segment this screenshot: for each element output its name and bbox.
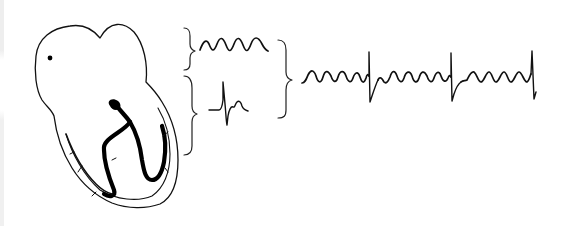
heart-illustration (35, 24, 178, 207)
ecg-qrs-spike-2 (451, 53, 461, 101)
ventricular-brace (184, 76, 197, 155)
ecg-qrs-spike-3 (531, 51, 536, 99)
ventricular-group (184, 76, 248, 155)
ecg-qrs-spike-1 (369, 52, 378, 102)
heart-conduction-diagram (0, 0, 567, 226)
ecg-fwaves-segment-3 (461, 72, 531, 82)
ventricular-qrs-waveform (209, 82, 248, 125)
atrial-fibrillation-waveform (200, 38, 268, 51)
atrial-group (184, 28, 268, 70)
sa-node-dot (48, 56, 53, 61)
combine-brace (278, 40, 292, 118)
combined-ecg-strip (302, 51, 536, 102)
atrial-brace (184, 28, 195, 70)
ecg-fwaves-segment-1 (302, 71, 369, 83)
ecg-fwaves-segment-2 (378, 72, 451, 83)
